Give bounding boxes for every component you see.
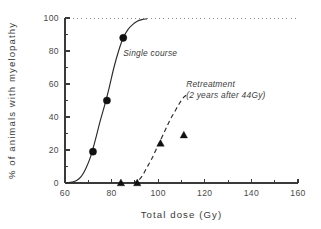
data-point-retreatment-3 [180,131,187,138]
chart-figure: 0204060801006080100120140160 Single cour… [0,0,321,229]
y-tick-label-100: 100 [43,13,59,23]
y-tick-label-0: 0 [54,178,59,188]
x-tick-label-80: 80 [106,188,116,198]
data-point-single-course-1 [103,97,110,104]
annotation-single-course-line-0: Single course [123,48,177,58]
annotation-retreatment-line-1: (2 years after 44Gy) [186,90,265,100]
data-point-retreatment-2 [157,140,164,147]
y-tick-label-80: 80 [49,46,59,56]
chart-canvas: 0204060801006080100120140160 Single cour… [0,0,321,229]
x-tick-label-100: 100 [150,188,166,198]
x-tick-label-60: 60 [60,188,70,198]
data-point-single-course-2 [120,34,127,41]
y-tick-label-20: 20 [49,145,59,155]
tick-labels-layer: 0204060801006080100120140160 [43,13,305,197]
axes-layer [65,18,298,183]
x-axis-title: Total dose (Gy) [141,209,223,220]
fit-curves-layer [66,19,188,183]
x-tick-label-140: 140 [244,188,260,198]
fit-curve-retreatment [133,94,189,183]
y-tick-label-40: 40 [49,112,59,122]
y-tick-label-60: 60 [49,79,59,89]
x-tick-label-160: 160 [290,188,306,198]
x-tick-label-120: 120 [197,188,213,198]
annotation-single-course: Single course [123,48,177,58]
annotation-retreatment: Retreatment(2 years after 44Gy) [186,79,265,99]
y-axis-title: % of animals with myelopathy [6,22,17,179]
annotations-layer: Single courseRetreatment(2 years after 4… [123,48,265,100]
data-point-single-course-0 [89,148,96,155]
annotation-retreatment-line-0: Retreatment [186,79,235,89]
